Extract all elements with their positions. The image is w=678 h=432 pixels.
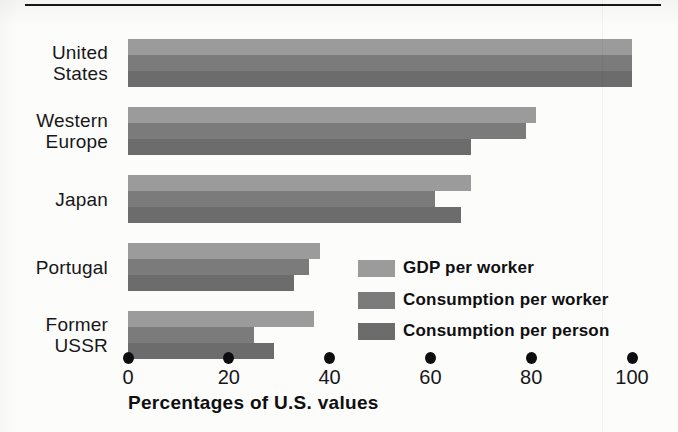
bar [128, 191, 435, 207]
legend-swatch [358, 260, 395, 277]
axis-tick-label: 80 [501, 366, 561, 388]
axis-tick-dot [123, 352, 134, 364]
category-label-line: USSR [0, 335, 108, 356]
axis-tick-dot [627, 352, 638, 364]
axis-tick-dot [425, 352, 436, 364]
category-label-line: Western [0, 110, 108, 131]
bar [128, 39, 632, 55]
bar [128, 207, 461, 223]
axis-tick-dot [324, 352, 335, 364]
axis-tick-label: 0 [98, 366, 158, 388]
bar-group: WesternEurope [0, 107, 678, 155]
legend-swatch [358, 292, 395, 309]
axis-tick-dot [526, 352, 537, 364]
legend-item: Consumption per person [358, 321, 610, 341]
bar-group: UnitedStates [0, 39, 678, 87]
x-axis-title: Percentages of U.S. values [128, 392, 379, 414]
bar-group: Japan [0, 175, 678, 223]
bar [128, 311, 314, 327]
legend-label: GDP per worker [403, 258, 534, 278]
axis-tick-label: 40 [300, 366, 360, 388]
category-label: Portugal [0, 257, 108, 278]
bar [128, 327, 254, 343]
axis-tick-label: 20 [199, 366, 259, 388]
bar [128, 139, 471, 155]
legend-item: GDP per worker [358, 258, 534, 278]
bar [128, 107, 536, 123]
bar [128, 343, 274, 359]
legend-label: Consumption per worker [403, 290, 609, 310]
bar [128, 123, 526, 139]
category-label: WesternEurope [0, 110, 108, 152]
category-label-line: Europe [0, 131, 108, 152]
bar [128, 55, 632, 71]
legend-item: Consumption per worker [358, 290, 609, 310]
legend-swatch [358, 323, 395, 340]
category-label: FormerUSSR [0, 314, 108, 356]
category-label-line: Former [0, 314, 108, 335]
bar [128, 175, 471, 191]
category-label: UnitedStates [0, 42, 108, 84]
axis-tick-label: 100 [602, 366, 662, 388]
bar-group: Portugal [0, 243, 678, 291]
legend-label: Consumption per person [403, 321, 610, 341]
bar [128, 71, 632, 87]
category-label-line: United [0, 42, 108, 63]
axis-tick-label: 60 [400, 366, 460, 388]
category-label-line: States [0, 63, 108, 84]
category-label-line: Japan [0, 189, 108, 210]
figure-page: UnitedStatesWesternEuropeJapanPortugalFo… [0, 0, 678, 432]
bar [128, 275, 294, 291]
category-label-line: Portugal [0, 257, 108, 278]
bar [128, 259, 309, 275]
category-label: Japan [0, 189, 108, 210]
bar [128, 243, 320, 259]
scan-seam-artifact [602, 0, 603, 432]
